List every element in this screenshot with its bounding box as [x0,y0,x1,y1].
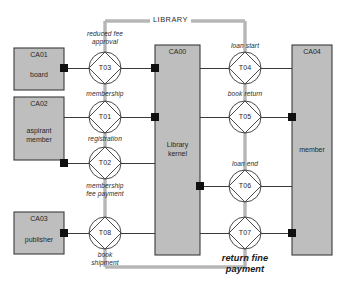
caption-book-shipment-line1: book [98,251,113,258]
box-ca02-code: CA02 [14,100,64,109]
transition-t03-label: T03 [90,64,120,71]
box-ca04-code: CA04 [292,48,332,57]
transition-t06-label: T06 [230,182,260,189]
caption-loan-start: loan start [203,42,287,50]
port-ca04-left-mid[interactable] [288,113,296,121]
port-ca00-left-mid[interactable] [151,113,159,121]
caption-membership: membership [63,90,147,98]
box-ca00-name-line1: Library [167,141,188,148]
port-ca00-right-low[interactable] [196,182,204,190]
box-ca02-name: aspirant member [14,127,64,144]
transition-t05-label: T05 [230,113,260,120]
port-ca00-left-top[interactable] [151,64,159,72]
caption-book-return: book return [203,90,287,98]
caption-reduced-fee-approval-line1: reduced fee [87,30,123,37]
caption-loan-end: loan end [203,160,287,168]
caption-membership-fee-payment-line1: membership [86,182,123,189]
diagram-canvas: LIBRARY CA01 board CA02 aspirant member … [0,0,346,298]
caption-book-shipment-line2: shipment [91,259,119,266]
box-ca00-name-line2: kernel [168,150,187,157]
caption-membership-fee-payment-line2: fee payment [86,190,123,197]
box-ca01-name: board [14,71,64,80]
caption-return-fine-payment-line1: return fine [222,253,269,263]
box-ca00-code: CA00 [155,48,200,57]
caption-registration: registration [63,135,147,143]
port-ca04-left-low[interactable] [288,229,296,237]
caption-return-fine-payment: return fine payment [193,253,297,275]
box-ca04-name: member [292,146,332,155]
box-ca02-name-line2: member [26,136,52,143]
port-ca02-right-low[interactable] [60,159,68,167]
boundary-label: LIBRARY [150,15,191,24]
box-ca02-name-line1: aspirant [27,127,52,134]
transition-t01-label: T01 [90,113,120,120]
caption-book-shipment: book shipment [63,251,147,267]
box-ca01-code: CA01 [14,51,64,60]
box-ca03-code: CA03 [14,215,64,224]
caption-reduced-fee-approval: reduced fee approval [63,30,147,46]
caption-membership-fee-payment: membership fee payment [58,182,152,198]
transition-t04-label: T04 [230,64,260,71]
caption-return-fine-payment-line2: payment [226,264,264,274]
transition-t08-label: T08 [90,229,120,236]
caption-reduced-fee-approval-line2: approval [92,38,118,45]
box-ca03-name: publisher [14,236,64,245]
transition-t07-label: T07 [230,229,260,236]
box-ca00-name: Library kernel [155,141,200,158]
transition-t02-label: T02 [90,159,120,166]
